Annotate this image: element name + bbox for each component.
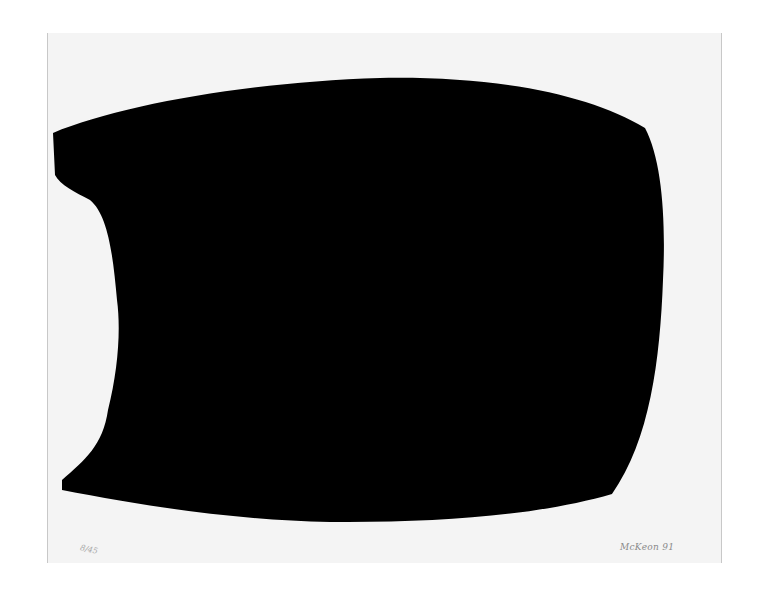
artist-signature: McKeon 91 [620,542,674,552]
black-abstract-shape [0,0,765,597]
